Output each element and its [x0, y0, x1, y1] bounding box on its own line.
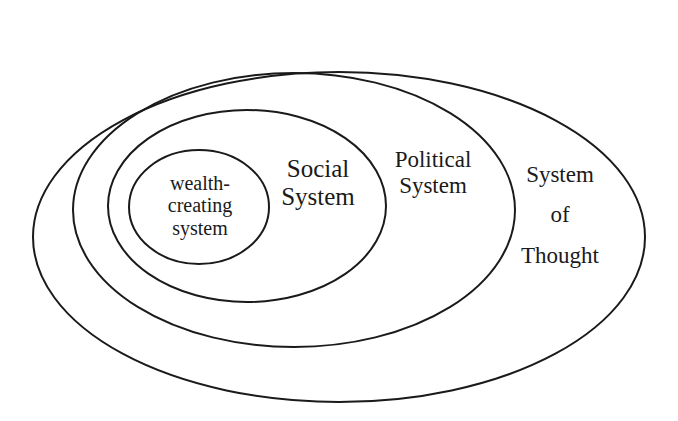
label-line: wealth- [145, 172, 255, 194]
label-line: creating [145, 194, 255, 216]
label-line: System [505, 155, 615, 195]
label-line: System [383, 173, 483, 199]
label-line: Political [383, 147, 483, 173]
label-line: System [268, 183, 368, 211]
label-line: Social [268, 155, 368, 183]
label-line: system [145, 217, 255, 239]
label-line: of [505, 195, 615, 235]
label-wealth-creating-system: wealth- creating system [145, 172, 255, 239]
label-political-system: Political System [383, 147, 483, 199]
label-system-of-thought: System of Thought [505, 155, 615, 276]
label-social-system: Social System [268, 155, 368, 211]
label-line: Thought [505, 236, 615, 276]
